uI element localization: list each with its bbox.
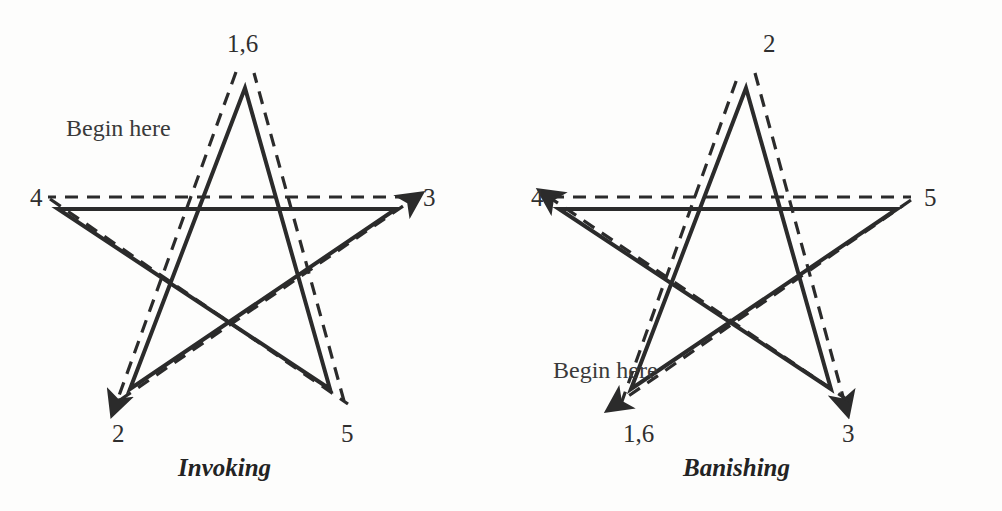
invoking-vertex-label-right: 3: [423, 185, 436, 210]
invoking-begin-here-label: Begin here: [66, 116, 171, 140]
invoking-pentagram-drawing: [0, 0, 501, 511]
invoking-vertex-label-bottom-left: 2: [112, 421, 125, 446]
banishing-pentagram-drawing: [501, 0, 1002, 511]
figure-invoking: Begin here 1,6 3 5 2 4 Invoking: [0, 0, 501, 511]
banishing-caption: Banishing: [683, 455, 790, 480]
banishing-vertex-label-bottom-left: 1,6: [623, 421, 654, 446]
invoking-vertex-label-left: 4: [30, 185, 43, 210]
invoking-stroke-5: [254, 73, 344, 401]
banishing-vertex-label-right: 5: [924, 185, 937, 210]
banishing-stroke-2: [755, 73, 845, 404]
pentagram-figure-page: Begin here 1,6 3 5 2 4 Invoking: [0, 0, 1002, 511]
banishing-vertex-label-bottom-right: 3: [842, 421, 855, 446]
invoking-vertex-label-bottom-right: 5: [341, 421, 354, 446]
banishing-vertex-label-apex: 2: [763, 31, 776, 56]
invoking-vertex-label-apex: 1,6: [227, 31, 258, 56]
figure-banishing: Begin here 2 5 3 1,6 4 Banishing: [501, 0, 1002, 511]
banishing-vertex-label-left: 4: [531, 185, 544, 210]
banishing-begin-here-label: Begin here: [553, 358, 658, 382]
invoking-caption: Invoking: [178, 455, 271, 480]
